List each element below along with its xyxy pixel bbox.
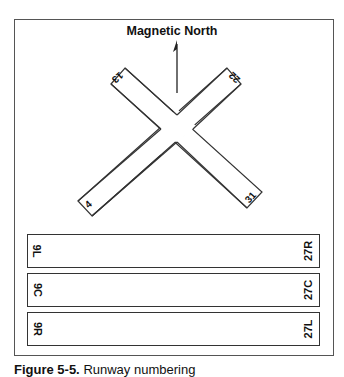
runway-13-31 <box>111 68 262 208</box>
runway-label-27C: 27C <box>302 280 314 300</box>
runway-9C-27C: 9C 27C <box>27 273 320 307</box>
runway-label-9C: 9C <box>32 283 44 297</box>
runway-label-9R: 9R <box>32 322 44 336</box>
runway-9L-27R: 9L 27R <box>27 234 320 268</box>
crossing-runways-diagram: 13 22 4 31 <box>0 0 344 240</box>
runway-9R-27L: 9R 27L <box>27 312 320 346</box>
figure-caption: Figure 5-5. Runway numbering <box>14 362 195 377</box>
runway-4-22 <box>78 68 241 216</box>
runway-label-27R: 27R <box>302 241 314 261</box>
runway-label-27L: 27L <box>303 320 315 339</box>
caption-label: Figure 5-5. <box>14 362 80 377</box>
runway-label-9L: 9L <box>31 245 43 258</box>
caption-text: Runway numbering <box>83 362 195 377</box>
north-arrow-icon <box>173 40 177 93</box>
